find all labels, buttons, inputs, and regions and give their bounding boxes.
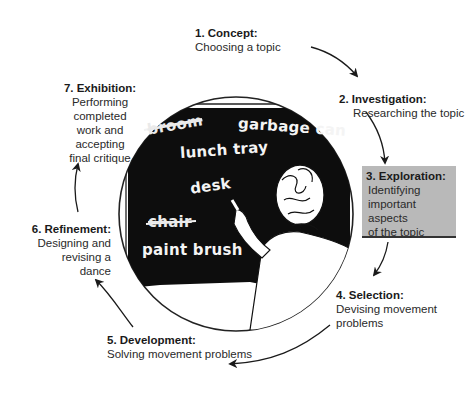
arrow-6-to-7: [75, 164, 78, 212]
stage-title: 6. Refinement:: [25, 222, 111, 236]
stage-5-development: 5. Development: Solving movement problem…: [107, 333, 252, 361]
arrow-5-to-6: [96, 280, 133, 327]
stage-description: Devising movement problems: [336, 302, 437, 330]
chalk-word-chair: chair: [148, 213, 192, 231]
stage-title: 5. Development:: [107, 333, 252, 347]
stage-4-selection: 4. Selection: Devising movement problems: [336, 288, 437, 330]
stage-1-concept: 1. Concept: Choosing a topic: [195, 26, 281, 54]
creative-process-cycle-diagram: broom garbage can lunch tray desk chair …: [0, 0, 470, 394]
arrow-1-to-2: [311, 47, 357, 76]
stage-3-exploration-highlighted: 3. Exploration: Identifying important as…: [362, 166, 456, 238]
stage-description: Performing completed work and accepting …: [40, 95, 160, 165]
chalk-word-paint-brush: paint brush: [142, 241, 243, 259]
stage-description: Solving movement problems: [107, 347, 252, 361]
stage-6-refinement: 6. Refinement: Designing and revising a …: [25, 222, 111, 278]
stage-description: Designing and revising a dance: [25, 236, 111, 278]
stage-description: Identifying important aspects of the top…: [366, 183, 456, 239]
stage-description: Choosing a topic: [195, 40, 281, 54]
stage-2-investigation: 2. Investigation: Researching the topic: [339, 92, 464, 120]
stage-title: 1. Concept:: [195, 26, 281, 40]
stage-title: 4. Selection:: [336, 288, 437, 302]
arrow-3-to-4: [374, 242, 388, 275]
stage-title: 3. Exploration:: [366, 169, 456, 183]
stage-7-exhibition: 7. Exhibition: Performing completed work…: [40, 81, 160, 165]
stage-description: Researching the topic: [339, 106, 464, 120]
stage-title: 7. Exhibition:: [40, 81, 160, 95]
stage-title: 2. Investigation:: [339, 92, 464, 106]
